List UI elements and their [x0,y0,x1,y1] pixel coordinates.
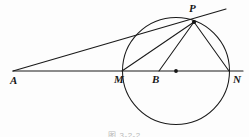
geometry-figure: A M B N P 图 3-2-2 [0,0,249,137]
point-label-B: B [152,74,159,85]
figure-caption: 图 3-2-2 [0,129,249,137]
point-label-P: P [189,3,196,14]
point-label-M: M [114,74,124,85]
segment-P-to-B [159,22,194,71]
point-label-A: A [10,75,17,86]
figure-strokes [13,9,243,125]
tangent-line-A-P [13,9,226,71]
point-marker-P [192,20,196,24]
point-marker-center-B [174,69,178,73]
geometry-canvas [0,0,249,137]
point-label-N: N [233,74,241,85]
